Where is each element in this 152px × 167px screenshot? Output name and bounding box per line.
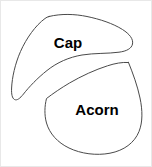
acorn-parts-diagram: Cap Acorn bbox=[1, 1, 152, 167]
diagram-figure: Cap Acorn bbox=[0, 0, 152, 167]
acorn-label: Acorn bbox=[75, 101, 118, 118]
cap-label: Cap bbox=[54, 34, 82, 51]
